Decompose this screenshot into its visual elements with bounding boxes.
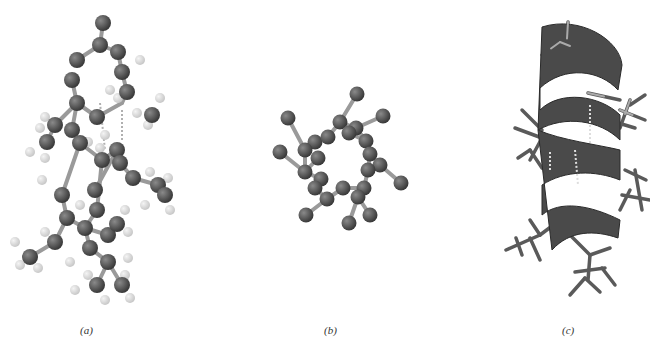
backbone-atom (281, 111, 296, 126)
hydrogen-atom (123, 227, 133, 237)
panel-b-caption: (b) (324, 324, 337, 336)
heavy-atom (64, 72, 80, 88)
heavy-atom (114, 64, 130, 80)
heavy-atom (77, 220, 93, 236)
hydrogen-atom (40, 227, 50, 237)
heavy-atom (119, 84, 135, 100)
backbone-atom (351, 190, 366, 205)
heavy-atom (69, 95, 85, 111)
backbone-atom (342, 216, 357, 231)
side-chain-stick (585, 278, 600, 292)
panel-a-caption: (a) (80, 324, 93, 336)
backbone-atom (308, 181, 323, 196)
hydrogen-atom (105, 85, 115, 95)
side-chain-stick (518, 150, 530, 158)
heavy-atom (144, 107, 160, 123)
helix-ribbon (538, 24, 622, 140)
hydrogen-atom (35, 123, 45, 133)
heavy-atom (157, 187, 173, 203)
panel-a-ball-and-stick-model: (a) (0, 0, 220, 350)
panel-b-axial-view-model: (b) (220, 0, 450, 350)
heavy-atom (110, 44, 126, 60)
ribbon-helix-figure (450, 0, 650, 320)
side-chain-stick (530, 220, 540, 235)
heavy-atom (39, 134, 55, 150)
ball-and-stick-helix-figure (0, 0, 220, 320)
hydrogen-atom (135, 55, 145, 65)
hydrogen-atom (10, 237, 20, 247)
backbone-atom (342, 126, 357, 141)
backbone-atom (311, 151, 326, 166)
backbone-atom (336, 181, 351, 196)
heavy-atom (87, 182, 103, 198)
hydrogen-atom (155, 93, 165, 103)
panel-c-caption: (c) (562, 324, 574, 336)
heavy-atom (112, 155, 128, 171)
heavy-atom (100, 254, 116, 270)
backbone-atom (394, 176, 409, 191)
heavy-atom (69, 52, 85, 68)
heavy-atom (47, 117, 63, 133)
side-chain-stick (590, 248, 610, 255)
heavy-atom (72, 135, 88, 151)
backbone-atom (361, 163, 376, 178)
hydrogen-atom (65, 257, 75, 267)
heavy-atom (22, 249, 38, 265)
side-chain-stick (602, 268, 615, 285)
heavy-atom (114, 277, 130, 293)
hydrogen-atom (70, 285, 80, 295)
side-chain-stick (570, 278, 585, 295)
hydrogen-atom (100, 130, 110, 140)
side-chain-stick (630, 95, 645, 105)
backbone-atom (273, 145, 288, 160)
heavy-atom (82, 240, 98, 256)
side-chain-stick (530, 238, 540, 260)
hydrogen-atom (33, 263, 43, 273)
side-chain-stick (570, 235, 590, 255)
heavy-atom (109, 216, 125, 232)
bond (62, 143, 80, 195)
hydrogen-atom (25, 147, 35, 157)
side-chain-stick-highlight (567, 22, 568, 39)
heavy-atom (89, 277, 105, 293)
hydrogen-atom (75, 200, 85, 210)
backbone-atom (376, 109, 391, 124)
backbone-atom (298, 165, 313, 180)
heavy-atom (59, 210, 75, 226)
heavy-atom (47, 234, 63, 250)
heavy-atom (92, 37, 108, 53)
heavy-atom (89, 109, 105, 125)
hydrogen-atom (95, 143, 105, 153)
backbone-atom (359, 134, 374, 149)
side-chain-stick (620, 190, 630, 210)
hydrogen-atom (120, 205, 130, 215)
hydrogen-atom (140, 200, 150, 210)
hydrogen-atom (40, 153, 50, 163)
heavy-atom (94, 152, 110, 168)
backbone-atom (363, 208, 378, 223)
backbone-atom (299, 208, 314, 223)
helix-ribbon (538, 130, 620, 250)
heavy-atom (95, 15, 111, 31)
side-chain-stick (588, 255, 590, 280)
panel-c-ribbon-model: (c) (450, 0, 650, 350)
hydrogen-atom (145, 167, 155, 177)
hydrogen-atom (83, 270, 93, 280)
hydrogen-atom (100, 295, 110, 305)
hydrogen-atom (165, 205, 175, 215)
heavy-atom (125, 170, 141, 186)
backbone-atom (350, 87, 365, 102)
backbone-atom (321, 130, 336, 145)
backbone-atom (320, 192, 335, 207)
heavy-atom (54, 187, 70, 203)
backbone-atom (298, 143, 313, 158)
hydrogen-atom (123, 253, 133, 263)
hydrogen-atom (125, 293, 135, 303)
helix-axial-view-figure (220, 0, 450, 320)
hydrogen-atom (37, 175, 47, 185)
hydrogen-atom (132, 108, 142, 118)
heavy-atom (89, 202, 105, 218)
